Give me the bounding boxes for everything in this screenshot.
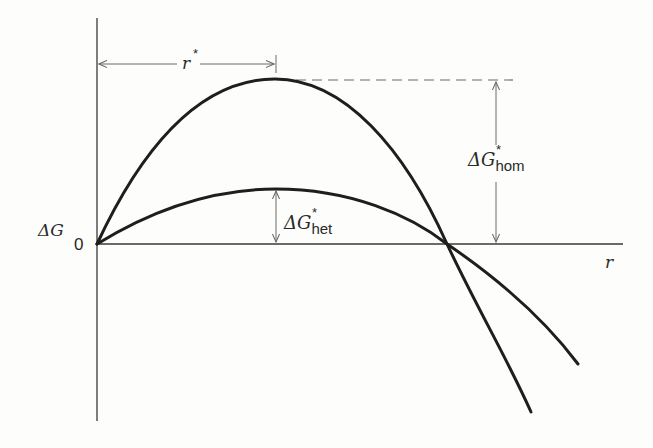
diagram-canvas: ΔG 0 r r* ΔG*hom ΔG*het bbox=[0, 0, 653, 448]
hom-barrier-superscript: * bbox=[496, 143, 501, 156]
critical-radius-symbol: r bbox=[182, 53, 190, 73]
het-barrier-symbol: ΔG bbox=[284, 212, 311, 233]
hom-barrier-subscript: hom bbox=[495, 157, 524, 174]
hom-barrier-symbol: ΔG bbox=[468, 149, 495, 170]
critical-radius-label: r* bbox=[180, 55, 192, 72]
heterogeneous-curve bbox=[97, 189, 578, 364]
origin-label: 0 bbox=[74, 236, 83, 253]
x-axis-label: r bbox=[605, 254, 613, 271]
het-barrier-subscript: het bbox=[311, 220, 332, 237]
homogeneous-curve bbox=[97, 79, 531, 412]
origin-label-text: 0 bbox=[74, 235, 83, 254]
het-barrier-superscript: * bbox=[312, 206, 317, 219]
hom-barrier-label: ΔG*hom bbox=[468, 151, 525, 169]
y-axis-label-text: ΔG bbox=[38, 220, 64, 240]
x-axis-label-text: r bbox=[605, 252, 613, 272]
y-axis-label: ΔG bbox=[38, 222, 64, 239]
het-barrier-label: ΔG*het bbox=[284, 214, 332, 232]
critical-radius-superscript: * bbox=[193, 47, 198, 60]
